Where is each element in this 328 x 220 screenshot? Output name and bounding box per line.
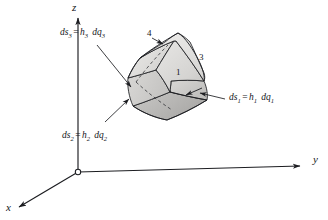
x-axis (19, 172, 78, 207)
axis-label-z: z (72, 2, 76, 13)
face-number-4: 4 (147, 29, 152, 38)
face-number-1: 1 (176, 68, 181, 77)
figure-canvas: z y x ds3=h3dq3 ds2=h2dq2 ds1=h1dq1 4 3 … (0, 0, 328, 220)
label-ds1-h-sub: 1 (254, 97, 257, 104)
axis-label-y: y (313, 154, 318, 165)
label-ds3-dq: dq (92, 27, 102, 37)
label-ds3-h-sub: 3 (85, 32, 88, 39)
leader-face-4 (152, 38, 163, 44)
label-ds2-dq: dq (94, 130, 104, 140)
label-ds2-eq: = (74, 130, 82, 140)
label-ds2-h-sub: 2 (87, 135, 90, 142)
label-ds2-dq-sub: 2 (104, 135, 107, 142)
y-axis (78, 166, 300, 172)
leader-ds2 (105, 99, 129, 122)
label-ds2: ds2=h2dq2 (62, 131, 107, 142)
label-ds3: ds3=h3dq3 (60, 28, 105, 39)
label-ds1-dq-sub: 1 (271, 97, 274, 104)
label-ds1: ds1=h1dq1 (229, 93, 274, 104)
volume-element (128, 33, 208, 120)
origin-circle-icon (75, 169, 80, 174)
face-number-3: 3 (199, 53, 204, 62)
label-ds3-dq-sub: 3 (102, 32, 105, 39)
axis-label-x: x (6, 202, 11, 213)
label-ds1-dq: dq (261, 92, 271, 102)
label-ds3-eq: = (72, 27, 80, 37)
label-ds1-eq: = (241, 92, 249, 102)
diagram-svg (0, 0, 328, 220)
leader-ds3 (97, 45, 131, 87)
